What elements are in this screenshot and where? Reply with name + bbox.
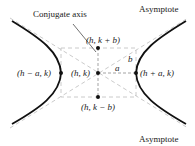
bottom-point <box>96 95 100 99</box>
asymptote-bottom-label: Asymptote <box>139 134 179 144</box>
center-point <box>96 71 100 75</box>
top-point-label: (h, k + b) <box>86 35 120 45</box>
right-vertex-point <box>134 71 138 75</box>
bottom-point-label: (h, k − b) <box>81 102 115 112</box>
top-point <box>96 46 100 50</box>
conjugate-axis-label: Conjugate axis <box>33 9 87 19</box>
right-vertex-label: (h + a, k) <box>140 68 174 78</box>
b-label: b <box>128 54 133 64</box>
hyperbola-diagram: Conjugate axis Asymptote Asymptote (h, k… <box>0 0 195 146</box>
asymptote-top-label: Asymptote <box>139 4 179 14</box>
left-vertex-point <box>59 71 63 75</box>
left-vertex-label: (h − a, k) <box>17 68 51 78</box>
center-label: (h, k) <box>71 68 90 78</box>
a-label: a <box>115 63 120 73</box>
